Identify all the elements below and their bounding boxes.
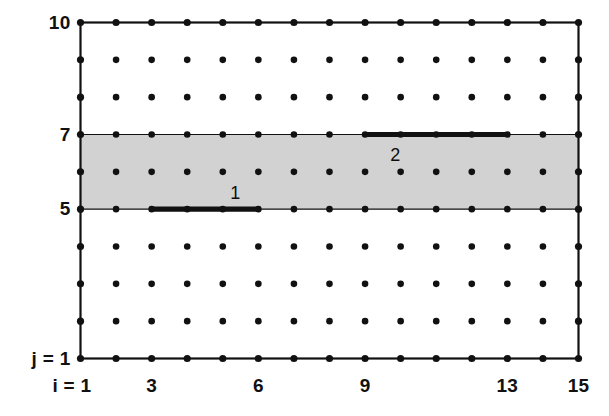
grid-dot [540,206,547,213]
grid-dot [113,318,120,325]
grid-dot [113,169,120,176]
grid-dot [219,57,226,64]
grid-dot [575,19,582,26]
grid-dot [326,57,333,64]
grid-dot [290,355,297,362]
grid-dot [540,169,547,176]
grid-dot [148,131,155,138]
grid-dot [397,355,404,362]
grid-dot [397,318,404,325]
grid-dot [184,131,191,138]
grid-dot [184,19,191,26]
grid-dot [77,318,84,325]
grid-dot [291,206,298,213]
element-label-1: 1 [230,183,240,204]
grid-dot [397,169,404,176]
grid-dot [433,318,440,325]
grid-dot [184,243,191,250]
grid-dot [504,243,511,250]
grid-dot [540,281,547,288]
grid-dot [148,94,155,101]
grid-dot [397,94,404,101]
grid-dot [468,19,475,26]
grid-dot [362,318,369,325]
grid-dot [362,94,369,101]
grid-dot [77,280,84,287]
grid-dot [468,94,475,101]
grid-dot [255,57,262,64]
grid-dot [468,57,475,64]
grid-dot [540,318,547,325]
grid-dot [433,94,440,101]
grid-dot [255,94,262,101]
y-tick-label-10: 10 [0,12,71,34]
grid-dot [148,355,155,362]
grid-dot [433,281,440,288]
grid-dot [575,206,582,213]
grid-dot [326,243,333,250]
grid-dot [468,169,475,176]
element-label-2: 2 [390,144,400,165]
grid-dot [504,206,511,213]
grid-dot [504,57,511,64]
grid-dot [468,281,475,288]
grid-dot [77,355,84,362]
grid-dot [77,94,84,101]
grid-dot [362,169,369,176]
grid-dot [504,281,511,288]
grid-dot [362,243,369,250]
x-tick-label-13: 13 [496,375,518,397]
grid-dot [77,206,84,213]
y-tick-label-7: 7 [0,124,71,146]
grid-dot [397,281,404,288]
grid-dot [184,281,191,288]
grid-dot [575,168,582,175]
grid-dot [291,318,298,325]
grid-dot [468,206,475,213]
grid-dot [540,131,547,138]
grid-dot [326,19,333,26]
grid-mesh-figure: 10 7 5 j = 1 i = 1 3 6 9 13 15 1 2 [0,0,609,416]
grid-dot [291,94,298,101]
grid-dot [575,355,582,362]
y-tick-label-5: 5 [0,198,71,220]
grid-dot [504,355,511,362]
grid-dot [113,206,120,213]
grid-dot [397,243,404,250]
grid-dot [184,169,191,176]
grid-dot [433,243,440,250]
grid-dot [504,94,511,101]
grid-dot [575,318,582,325]
grid-dot [255,243,262,250]
grid-dot [433,355,440,362]
x-tick-label-15: 15 [568,375,590,397]
grid-dot [326,318,333,325]
grid-dot [326,169,333,176]
grid-dot [540,57,547,64]
grid-dot [504,19,511,26]
grid-dot [113,57,120,64]
grid-dot [255,169,262,176]
grid-dot [575,56,582,63]
grid-dot [291,169,298,176]
grid-dot [575,280,582,287]
grid-dot [362,206,369,213]
grid-dot [540,94,547,101]
grid-dot [255,318,262,325]
grid-dot [326,94,333,101]
grid-dot [184,318,191,325]
grid-dot [575,131,582,138]
grid-dot [291,131,298,138]
grid-dot [540,243,547,250]
grid-dot [539,355,546,362]
grid-dot [184,94,191,101]
grid-dot [112,355,119,362]
grid-dot [148,19,155,26]
grid-dot [219,243,226,250]
grid-dot [575,243,582,250]
grid-dot [77,168,84,175]
x-axis-origin-label: i = 1 [52,375,91,397]
grid-dot [219,19,226,26]
grid-dot [433,169,440,176]
grid-dot [290,19,297,26]
